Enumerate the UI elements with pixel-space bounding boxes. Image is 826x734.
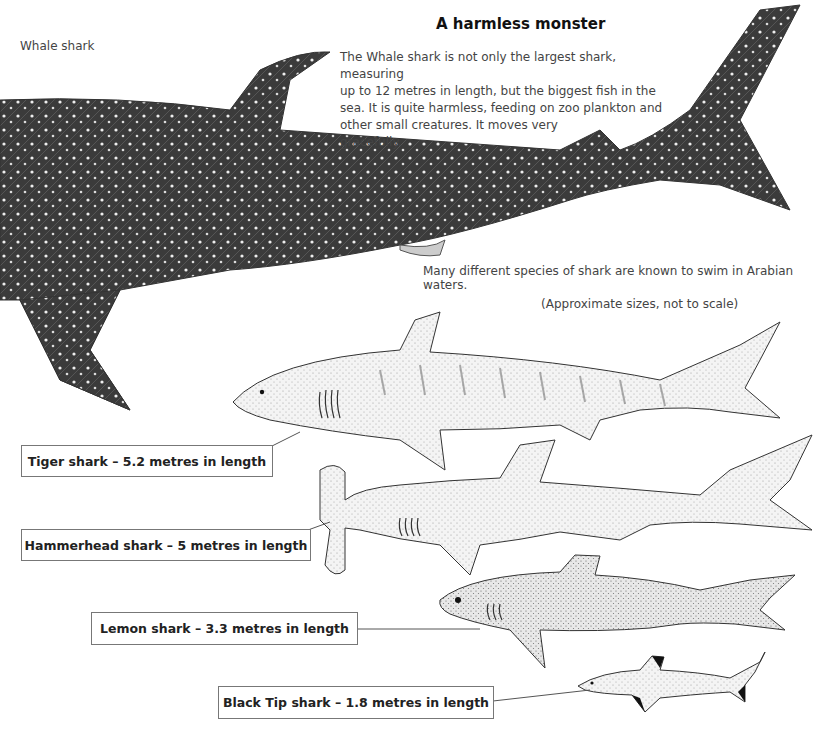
tiger-shark-label: Tiger shark – 5.2 metres in length — [21, 445, 273, 477]
blacktip-shark-drawing — [578, 652, 765, 712]
lemon-shark-label: Lemon shark – 3.3 metres in length — [91, 612, 358, 645]
page-title: A harmless monster — [436, 15, 605, 33]
lemon-shark-drawing — [440, 555, 795, 668]
description-line: sea. It is quite harmless, feeding on zo… — [340, 100, 680, 117]
tiger-shark-drawing — [233, 312, 780, 470]
whale-description: The Whale shark is not only the largest … — [340, 49, 680, 151]
description-line: other small creatures. It moves very — [340, 117, 680, 134]
description-line: gracefully. — [340, 134, 680, 151]
intro-text: Many different species of shark are know… — [423, 264, 826, 292]
scale-note: (Approximate sizes, not to scale) — [541, 297, 738, 311]
hammerhead-shark-drawing — [320, 435, 812, 575]
description-line: The Whale shark is not only the largest … — [340, 49, 680, 83]
description-line: up to 12 metres in length, but the bigge… — [340, 83, 680, 100]
blacktip-shark-label: Black Tip shark – 1.8 metres in length — [218, 686, 494, 719]
whale-shark-label: Whale shark — [20, 39, 94, 53]
hammerhead-shark-label: Hammerhead shark – 5 metres in length — [21, 529, 311, 561]
